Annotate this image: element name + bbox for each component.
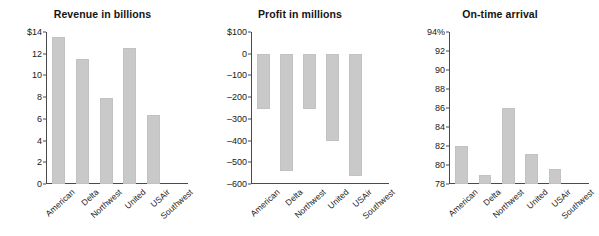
y-tick-mark [446,32,449,33]
y-tick-label: 78 [435,179,445,189]
y-tick-label: 12 [32,49,42,59]
bar-delta [76,59,89,184]
y-tick-mark [43,97,46,98]
y-tick-label: $14 [27,27,42,37]
bar-american [257,54,269,109]
y-tick-mark [446,89,449,90]
y-tick-mark [248,162,251,163]
y-tick-label: 94% [427,27,445,37]
y-tick-mark [43,75,46,76]
bar-american [455,146,468,184]
y-tick-mark [248,118,251,119]
y-tick-label: 2 [37,157,42,167]
y-tick-mark [248,75,251,76]
y-tick-label: 80 [435,160,445,170]
y-tick-mark [446,146,449,147]
y-tick-label: –100 [227,70,247,80]
y-tick-label: –500 [227,157,247,167]
y-tick-label: 86 [435,103,445,113]
y-tick-label: 90 [435,65,445,75]
y-tick-mark [446,108,449,109]
y-tick-label: 10 [32,70,42,80]
bar-delta [280,54,292,171]
y-tick-label: –600 [227,179,247,189]
plot-area-profit: –600–500–400–300–200–1000$100 AmericanDe… [251,32,389,184]
y-tick-label: 84 [435,122,445,132]
y-tick-mark [43,53,46,54]
bar-united [326,54,338,141]
bar-group [47,32,188,183]
y-tick-mark [43,118,46,119]
plot-area-ontime: 788082848688909294% AmericanDeltaNorthwe… [449,32,589,184]
y-tick-mark [248,53,251,54]
y-tick-mark [43,162,46,163]
y-tick-mark [446,127,449,128]
x-tick-label-group: AmericanDeltaNorthwestUnitedUSAirSouthwe… [449,184,589,236]
figure-canvas: Revenue in billions 024681012$14 America… [0,0,599,236]
chart-title: Profit in millions [199,8,399,20]
y-tick-mark [446,165,449,166]
y-tick-label: 8 [37,92,42,102]
y-tick-label: 0 [37,179,42,189]
y-tick-label: 82 [435,141,445,151]
y-tick-label: $100 [227,27,247,37]
chart-panel-revenue: Revenue in billions 024681012$14 America… [0,0,199,236]
y-tick-mark [248,32,251,33]
plot-area-revenue: 024681012$14 AmericanDeltaNorthwestUnite… [46,32,188,184]
bar-group [450,32,589,183]
y-tick-mark [446,51,449,52]
y-tick-mark [43,140,46,141]
x-tick-label-group: AmericanDeltaNorthwestUnitedUSAirSouthwe… [46,184,188,236]
y-tick-mark [248,140,251,141]
y-tick-label: 88 [435,84,445,94]
y-tick-mark [446,70,449,71]
chart-title: On-time arrival [399,8,599,20]
chart-title: Revenue in billions [0,8,199,20]
bar-american [52,37,65,184]
y-tick-label: 0 [242,49,247,59]
y-tick-label: –400 [227,136,247,146]
y-tick-mark [248,97,251,98]
bar-usair [349,54,361,177]
x-tick-label-group: AmericanDeltaNorthwestUnitedUSAirSouthwe… [251,184,389,236]
y-tick-mark [43,32,46,33]
y-tick-label: 4 [37,136,42,146]
bar-united [123,48,136,184]
y-tick-label: –300 [227,114,247,124]
y-tick-label: 6 [37,114,42,124]
x-tick-label: Southwest [589,160,599,194]
chart-panel-profit: Profit in millions –600–500–400–300–200–… [199,0,399,236]
chart-panel-ontime: On-time arrival 788082848688909294% Amer… [399,0,599,236]
y-tick-label: –200 [227,92,247,102]
y-tick-label: 92 [435,46,445,56]
bar-northwest [303,54,315,109]
bar-group [252,32,389,183]
